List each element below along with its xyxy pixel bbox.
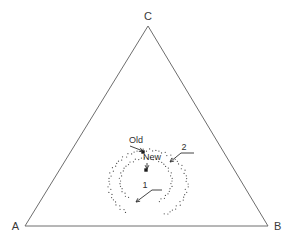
annotation-contour-2: 2: [181, 142, 186, 152]
vertex-label-b: B: [274, 220, 281, 232]
contour-2-leader-line: [170, 153, 194, 162]
ternary-diagram-canvas: A B C Old New 1 2: [0, 0, 291, 241]
annotation-contour-1: 1: [142, 180, 147, 190]
old-leader-line: [130, 146, 143, 151]
contour-1-leader-line: [136, 190, 162, 202]
new-leader-line: [145, 163, 149, 169]
vertex-label-c: C: [144, 10, 152, 22]
annotation-old: Old: [129, 135, 143, 145]
annotation-new: New: [143, 152, 162, 162]
vertex-label-a: A: [12, 220, 20, 232]
ternary-triangle-outline: [25, 26, 268, 226]
ternary-diagram-figure: A B C Old New 1 2: [0, 0, 291, 241]
